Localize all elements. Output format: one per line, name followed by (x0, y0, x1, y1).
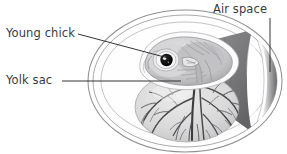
chick-eye (153, 49, 179, 71)
label-yolk-sac: Yolk sac (6, 74, 52, 87)
egg-anatomy-diagram: Young chick Yolk sac Air space (0, 0, 287, 154)
label-young-chick: Young chick (6, 27, 75, 40)
label-air-space: Air space (213, 3, 267, 16)
